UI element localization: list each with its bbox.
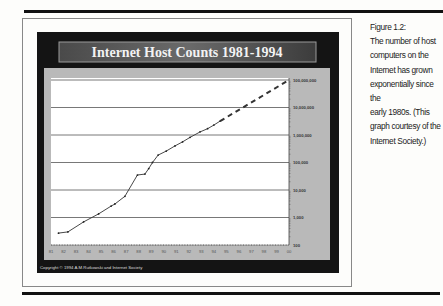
data-point [98,213,100,215]
x-tick-label: 96 [237,249,242,254]
data-point [152,162,154,164]
caption-line: computers on the [370,48,443,62]
data-point [67,231,69,233]
data-point [182,141,184,143]
x-tick-label: 89 [149,249,154,254]
caption-line: exponentially since the [370,77,443,105]
copyright-text: Copyright © 1994 A.M.Rutkowski and Inter… [40,265,143,270]
x-tick-label: 92 [186,249,191,254]
data-point [144,173,146,175]
x-tick-label: 93 [199,249,204,254]
x-tick-label: 87 [124,249,129,254]
y-tick-label: 1,000 [293,215,304,220]
y-tick-label: 100,000 [293,160,309,165]
x-tick-label: 88 [136,249,141,254]
x-tick-label: 00 [287,249,292,254]
caption-line: Internet has grown [370,63,443,77]
y-tick-label: 10,000 [293,188,306,193]
data-point [157,154,159,156]
x-tick-label: 86 [111,249,116,254]
x-tick-label: 98 [262,249,267,254]
data-point [110,205,112,207]
bottom-rule [22,292,440,295]
x-tick-label: 82 [61,249,66,254]
y-tick-label: 1,000,000 [293,133,312,138]
caption-line: The number of host [370,34,443,48]
x-tick-label: 97 [249,249,254,254]
data-point [137,174,139,176]
y-tick-label: 100,000,000 [293,78,317,83]
x-tick-label: 81 [49,249,54,254]
data-point [189,136,191,138]
x-tick-label: 94 [212,249,217,254]
data-point [174,145,176,147]
x-tick-label: 84 [86,249,91,254]
caption-line: Internet Society.) [370,134,443,148]
data-point [165,150,167,152]
data-point [207,128,209,130]
x-tick-label: 99 [274,249,279,254]
y-tick-label: 100 [293,243,301,248]
figure-caption: Figure 1.2: The number of host computers… [370,20,443,148]
x-tick-label: 91 [174,249,179,254]
x-tick-label: 90 [161,249,166,254]
y-tick-label: 10,000,000 [293,105,315,110]
data-point [148,168,150,170]
data-point [124,195,126,197]
data-point [199,131,201,133]
data-point [58,232,60,234]
x-tick-label: 83 [74,249,79,254]
chart-title: Internet Host Counts 1981-1994 [92,45,283,60]
data-point [213,124,215,126]
caption-line: graph courtesy of the [370,119,443,133]
caption-line: early 1980s. (This [370,105,443,119]
data-point [83,221,85,223]
figure-label: Figure 1.2: [370,20,443,34]
x-tick-label: 85 [99,249,104,254]
data-point [114,203,116,205]
x-tick-label: 95 [224,249,229,254]
